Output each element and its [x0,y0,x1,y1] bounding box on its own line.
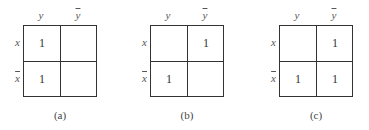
cell-xbar-y: 1 [24,62,60,97]
row-label-x-bar: x [135,72,147,84]
cell-xbar-ybar [188,62,224,97]
row-label-x: x [135,36,147,48]
col-label-y-bar: y [60,9,96,21]
cell-x-ybar: 1 [317,26,353,61]
cell-xbar-y: 1 [280,62,316,97]
cell-x-ybar: 1 [188,26,224,61]
row-label-x: x [264,36,276,48]
cell-x-ybar [61,26,97,61]
col-label-y: y [150,9,186,21]
row-label-x: x [8,36,20,48]
cell-x-y [151,26,187,61]
col-label-y-bar: y [187,9,223,21]
cell-xbar-ybar: 1 [317,62,353,97]
karnaugh-map-b: y y x x 1 1 (b) [123,0,246,130]
karnaugh-map-c: y y x x 1 1 1 (c) [246,0,369,130]
cell-x-y [280,26,316,61]
kmap-grid: 1 1 1 [279,25,353,97]
caption: (c) [279,109,353,121]
col-label-y: y [279,9,315,21]
cell-x-y: 1 [24,26,60,61]
col-label-y-bar: y [316,9,352,21]
cell-xbar-y: 1 [151,62,187,97]
caption: (b) [150,109,224,121]
row-label-x-bar: x [8,72,20,84]
cell-xbar-ybar [61,62,97,97]
caption: (a) [23,109,97,121]
kmap-grid: 1 1 [23,25,97,97]
kmap-grid: 1 1 [150,25,224,97]
karnaugh-map-a: y y x x 1 1 (a) [0,0,123,130]
col-label-y: y [23,9,59,21]
row-label-x-bar: x [264,72,276,84]
